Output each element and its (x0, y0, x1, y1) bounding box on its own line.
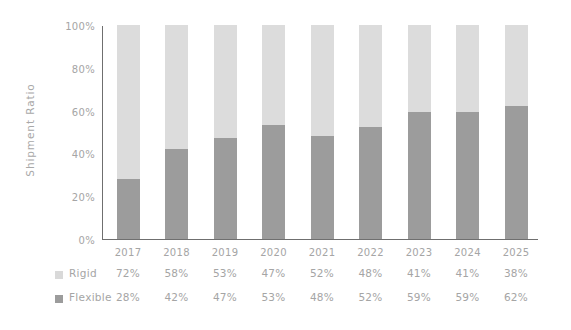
bar-column[interactable]: 2022 (359, 25, 382, 239)
bar-column[interactable]: 2020 (262, 25, 285, 239)
bar-segment-rigid[interactable] (214, 25, 237, 138)
bar-segment-rigid[interactable] (262, 25, 285, 126)
bar-segment-flexible[interactable] (456, 112, 479, 238)
bar-segment-rigid[interactable] (359, 25, 382, 128)
legend-row-flexible[interactable]: Flexible 28%42%47%53%48%52%59%59%62% (0, 288, 571, 312)
bar-column[interactable]: 2018 (165, 25, 188, 239)
table-cell-flexible: 62% (484, 291, 548, 303)
bar-segment-flexible[interactable] (117, 179, 140, 239)
legend-row-rigid[interactable]: Rigid 72%58%53%47%52%48%41%41%38% (0, 264, 571, 288)
y-axis-tick-label: 0% (79, 235, 95, 246)
legend-swatch-rigid-icon (55, 271, 63, 279)
y-axis-tick-label: 40% (72, 149, 95, 160)
bar-column[interactable]: 2025 (505, 25, 528, 239)
y-axis-title-label: Shipment Ratio (24, 83, 36, 176)
bar-segment-flexible[interactable] (262, 125, 285, 238)
y-axis-tick-label: 20% (72, 192, 95, 203)
bar-segment-flexible[interactable] (311, 136, 334, 239)
y-axis-tick-label: 80% (72, 63, 95, 74)
bar-segment-rigid[interactable] (456, 25, 479, 113)
bar-segment-rigid[interactable] (311, 25, 334, 136)
bar-column[interactable]: 2023 (408, 25, 431, 239)
bar-column[interactable]: 2021 (311, 25, 334, 239)
legend-label-rigid: Rigid (69, 267, 97, 279)
bar-segment-rigid[interactable] (408, 25, 431, 113)
bar-column[interactable]: 2017 (117, 25, 140, 239)
plot-area: 0%20%40%60%80%100% 201720182019202020212… (102, 26, 538, 240)
bar-segment-rigid[interactable] (117, 25, 140, 179)
bar-column[interactable]: 2019 (214, 25, 237, 239)
x-axis-tick-label: 2025 (484, 247, 548, 258)
bar-segment-flexible[interactable] (408, 112, 431, 238)
y-axis-tick-label: 100% (65, 21, 95, 32)
legend-swatch-flexible-icon (55, 295, 63, 303)
y-axis-tick-label: 60% (72, 106, 95, 117)
bar-segment-flexible[interactable] (359, 127, 382, 238)
y-axis-line (102, 26, 103, 240)
y-axis-title: Shipment Ratio (18, 30, 42, 230)
bar-segment-flexible[interactable] (505, 106, 528, 239)
bar-segment-flexible[interactable] (214, 138, 237, 239)
x-axis-line (102, 239, 538, 240)
bar-segment-rigid[interactable] (165, 25, 188, 149)
bar-segment-rigid[interactable] (505, 25, 528, 106)
stacked-bar-chart: Shipment Ratio 0%20%40%60%80%100% 201720… (0, 0, 571, 330)
bar-segment-flexible[interactable] (165, 149, 188, 239)
table-cell-rigid: 38% (484, 267, 548, 279)
bar-column[interactable]: 2024 (456, 25, 479, 239)
legend-and-data-table: Rigid 72%58%53%47%52%48%41%41%38% Flexib… (0, 262, 571, 322)
